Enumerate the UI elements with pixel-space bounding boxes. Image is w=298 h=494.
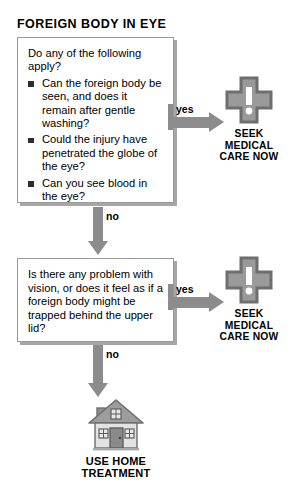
edge-label-yes-1: yes bbox=[176, 104, 194, 115]
arrow-head bbox=[88, 241, 108, 255]
list-item: Could the injury have penetrated the glo… bbox=[28, 133, 164, 173]
list-item: Can the foreign body be seen, and does i… bbox=[28, 77, 164, 131]
decision-box-2-text: Is there any problem with vision, or doe… bbox=[28, 268, 164, 336]
square-bullet-icon bbox=[28, 181, 34, 187]
outcome-label-line-2: MEDICAL bbox=[205, 320, 293, 332]
square-bullet-icon bbox=[28, 138, 34, 144]
arrow-no-1-icon bbox=[88, 207, 108, 255]
edge-label-yes-2: yes bbox=[176, 284, 194, 295]
outcome-seek-medical-care-1: SEEK MEDICAL CARE NOW bbox=[205, 76, 293, 163]
list-item-label: Can the foreign body be seen, and does i… bbox=[42, 77, 161, 129]
arrow-head bbox=[88, 383, 108, 397]
outcome-label-line-3: CARE NOW bbox=[205, 151, 293, 163]
house-icon bbox=[85, 396, 147, 452]
outcome-seek-medical-care-2: SEEK MEDICAL CARE NOW bbox=[205, 256, 293, 343]
outcome-label-line-1: USE HOME bbox=[56, 455, 176, 467]
outcome-use-home-treatment: USE HOME TREATMENT bbox=[56, 396, 176, 480]
outcome-label-line-2: MEDICAL bbox=[205, 140, 293, 152]
decision-box-1-lead: Do any of the following apply? bbox=[28, 47, 164, 74]
page-title: FOREIGN BODY IN EYE bbox=[17, 17, 166, 31]
outcome-label-line-1: SEEK bbox=[205, 128, 293, 140]
edge-label-no-1: no bbox=[106, 211, 119, 222]
arrow-shaft bbox=[93, 345, 103, 383]
edge-label-no-2: no bbox=[106, 349, 119, 360]
medical-cross-icon bbox=[225, 256, 273, 304]
outcome-label-line-2: TREATMENT bbox=[56, 467, 176, 479]
list-item-label: Could the injury have penetrated the glo… bbox=[42, 133, 157, 172]
flowchart-canvas: FOREIGN BODY IN EYE Do any of the follow… bbox=[0, 0, 298, 494]
arrow-shaft bbox=[93, 207, 103, 241]
decision-box-1: Do any of the following apply? Can the f… bbox=[17, 37, 174, 203]
list-item: Can you see blood in the eye? bbox=[28, 177, 164, 204]
outcome-seek-medical-care-2-label: SEEK MEDICAL CARE NOW bbox=[205, 308, 293, 343]
decision-box-1-bullets: Can the foreign body be seen, and does i… bbox=[28, 77, 164, 204]
list-item-label: Can you see blood in the eye? bbox=[42, 177, 147, 202]
decision-box-2-content: Is there any problem with vision, or doe… bbox=[18, 259, 173, 340]
outcome-use-home-treatment-label: USE HOME TREATMENT bbox=[56, 455, 176, 480]
outcome-seek-medical-care-1-label: SEEK MEDICAL CARE NOW bbox=[205, 128, 293, 163]
decision-box-2: Is there any problem with vision, or doe… bbox=[17, 258, 174, 342]
decision-box-1-content: Do any of the following apply? Can the f… bbox=[18, 38, 173, 207]
outcome-label-line-1: SEEK bbox=[205, 308, 293, 320]
square-bullet-icon bbox=[28, 81, 34, 87]
arrow-no-2-icon bbox=[88, 345, 108, 397]
outcome-label-line-3: CARE NOW bbox=[205, 331, 293, 343]
medical-cross-icon bbox=[225, 76, 273, 124]
